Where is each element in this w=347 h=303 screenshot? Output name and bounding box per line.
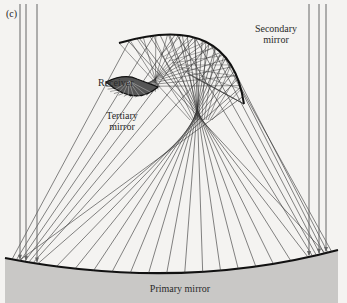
tertiary-label-line2: mirror: [99, 121, 145, 132]
primary-mirror-label: Primary mirror: [130, 283, 230, 294]
ray-diagram: [0, 0, 347, 303]
telescope-optics-diagram: (c) Secondary mirror Receiver Tertiary m…: [0, 0, 347, 303]
secondary-mirror-label: Secondary mirror: [246, 23, 306, 45]
panel-label: (c): [6, 8, 17, 19]
tertiary-label-line1: Tertiary: [99, 110, 145, 121]
tertiary-mirror-label: Tertiary mirror: [99, 110, 145, 132]
secondary-label-line2: mirror: [246, 34, 306, 45]
reflected-rays: [12, 34, 332, 273]
primary-mirror: [5, 250, 338, 303]
secondary-label-line1: Secondary: [246, 23, 306, 34]
receiver-label: Receiver: [98, 77, 134, 88]
